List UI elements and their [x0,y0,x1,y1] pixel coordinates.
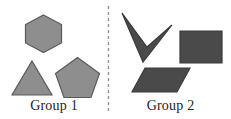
rectangle-shape [180,31,222,63]
group-1-label: Group 1 [0,99,108,113]
group-2-label: Group 2 [110,99,231,113]
